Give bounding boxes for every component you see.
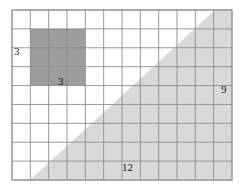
label-right-9: 9 — [221, 84, 227, 95]
label-left-3: 3 — [14, 46, 20, 57]
label-bottom-3: 3 — [58, 76, 64, 87]
label-bottom-12: 12 — [122, 162, 133, 173]
